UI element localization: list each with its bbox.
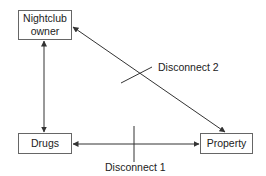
node-label: Drugs bbox=[31, 137, 59, 150]
edge-owner-property bbox=[73, 27, 225, 132]
node-drugs: Drugs bbox=[18, 133, 72, 154]
node-property: Property bbox=[200, 133, 253, 154]
disconnect-2-mark bbox=[121, 67, 152, 83]
node-nightclub-owner: Nightclub owner bbox=[18, 10, 72, 40]
node-label: Property bbox=[207, 137, 247, 150]
node-label: Nightclub bbox=[23, 12, 67, 25]
disconnect-2-label: Disconnect 2 bbox=[158, 61, 219, 73]
node-label: owner bbox=[31, 25, 60, 38]
disconnect-1-label: Disconnect 1 bbox=[105, 161, 166, 173]
